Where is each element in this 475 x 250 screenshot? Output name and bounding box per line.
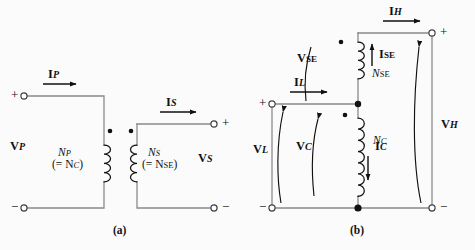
terminal-sign-high-minus: − xyxy=(440,200,447,214)
label-voltage-vh: VH xyxy=(441,118,458,131)
polarity-dot-common xyxy=(343,113,348,118)
transformer-figure: IP IS VP VS NP (= NC) NS (= NSE) + − + −… xyxy=(0,0,475,250)
label-turns-ns: NS xyxy=(148,146,160,158)
voltage-arc-vh xyxy=(414,47,421,203)
label-turns-nc: NC xyxy=(373,134,386,146)
terminal-high-plus xyxy=(429,30,435,36)
terminal-sign-secondary-plus: + xyxy=(222,116,229,130)
label-voltage-vp: VP xyxy=(10,140,25,153)
terminal-sign-primary-plus: + xyxy=(11,88,18,102)
label-voltage-vs: VS xyxy=(198,152,213,165)
label-voltage-vse: VSE xyxy=(297,52,317,65)
terminal-low-minus xyxy=(269,205,275,211)
terminal-sign-secondary-minus: − xyxy=(222,200,229,214)
label-current-il: IL xyxy=(294,76,305,89)
terminal-primary-plus xyxy=(21,93,27,99)
terminal-secondary-minus xyxy=(211,205,217,211)
polarity-dot-primary xyxy=(108,129,113,134)
terminal-low-plus xyxy=(269,101,275,107)
circuit-drawing xyxy=(0,0,475,250)
voltage-arc-vl xyxy=(278,112,283,203)
label-current-ip: IP xyxy=(48,68,59,81)
label-voltage-vl: VL xyxy=(253,143,268,156)
label-turns-np: NP xyxy=(58,146,71,158)
terminal-sign-primary-minus: − xyxy=(11,200,18,214)
junction-dot-bottom xyxy=(354,204,361,211)
panel-a-wires xyxy=(24,96,214,208)
caption-panel-a: (a) xyxy=(113,224,126,236)
polarity-dot-series xyxy=(339,40,344,45)
label-turns-ns-equiv: (= NSE) xyxy=(142,158,177,170)
label-turns-np-equiv: (= NC) xyxy=(52,158,83,170)
terminal-sign-low-minus: − xyxy=(259,200,266,214)
voltage-arc-vc xyxy=(312,119,318,196)
label-turns-nse: NSE xyxy=(372,67,390,79)
caption-panel-b: (b) xyxy=(350,224,364,236)
junction-dot-mid xyxy=(355,101,361,107)
terminal-sign-low-plus: + xyxy=(259,96,266,110)
common-winding-coil xyxy=(358,118,364,196)
label-current-is: IS xyxy=(166,96,176,109)
terminal-sign-high-plus: + xyxy=(440,25,447,39)
secondary-coil xyxy=(130,145,137,182)
terminal-primary-minus xyxy=(21,205,27,211)
terminal-high-minus xyxy=(429,205,435,211)
label-voltage-vc: VC xyxy=(296,140,312,153)
polarity-dot-secondary xyxy=(129,129,134,134)
primary-coil xyxy=(104,145,111,182)
panel-b-wires xyxy=(272,33,432,208)
terminal-secondary-plus xyxy=(211,121,217,127)
series-winding-coil xyxy=(358,42,364,79)
label-current-ise: ISE xyxy=(379,48,395,61)
label-current-ih: IH xyxy=(389,5,402,18)
